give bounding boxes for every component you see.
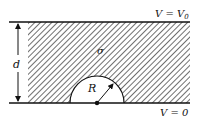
radius-label: R: [87, 82, 96, 95]
top-boundary-label: V = V0: [155, 8, 189, 21]
conductivity-label: σ: [97, 45, 105, 56]
bottom-boundary-label: V = 0: [160, 107, 189, 118]
top-boundary-subscript: 0: [184, 13, 189, 21]
thickness-label: d: [13, 58, 20, 71]
semicircle-in-slab-diagram: d σ R V = V0 V = 0: [0, 0, 198, 120]
